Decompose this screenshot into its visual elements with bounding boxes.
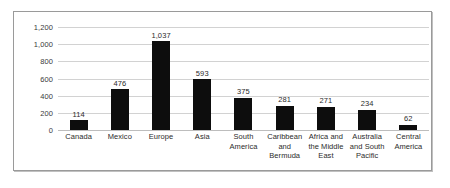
bar-value-label: 114 [72,110,84,119]
y-axis-tick-label: 1,000 [34,40,53,49]
plot-area: 1,2001,0008006004002000 1144761,03759337… [58,27,429,130]
bar-slot: 271 [305,27,346,130]
x-axis-category-label: CaribbeanandBermuda [264,132,305,161]
bar[interactable] [358,110,376,130]
bar[interactable] [399,125,417,130]
category-label-line: Pacific [347,151,388,161]
bar-slot: 593 [182,27,223,130]
bar[interactable] [111,89,129,130]
y-axis-tick-label: 1,200 [34,23,53,32]
x-axis-category-label: Mexico [99,132,140,142]
category-label-line: South [223,132,264,142]
axis-baseline: 0 [58,130,429,131]
y-axis-tick-label: 800 [40,57,53,66]
category-label-line: Caribbean [264,132,305,142]
y-axis-tick-label: 600 [40,74,53,83]
chart-screenshot: 1,2001,0008006004002000 1144761,03759337… [0,0,450,188]
bar[interactable] [193,79,211,130]
bar-slot: 62 [388,27,429,130]
bar[interactable] [276,106,294,130]
x-axis-category-label: Australiaand SouthPacific [347,132,388,161]
category-label-line: Australia [347,132,388,142]
category-label-line: Africa and [305,132,346,142]
bar-slot: 1,037 [140,27,181,130]
bar-value-label: 593 [196,69,209,78]
x-axis-category-label: Europe [140,132,181,142]
category-label-line: Central [388,132,429,142]
bar[interactable] [70,120,88,130]
category-label-line: America [223,142,264,152]
x-axis-category-label: Canada [58,132,99,142]
bar-value-label: 234 [361,99,374,108]
category-label-line: America [388,142,429,152]
bar-chart: 1,2001,0008006004002000 1144761,03759337… [13,11,432,171]
x-axis-category-label: CentralAmerica [388,132,429,151]
bar[interactable] [317,107,335,130]
bar-value-label: 375 [237,87,250,96]
category-label-line: the Middle [305,142,346,152]
category-label-line: Mexico [99,132,140,142]
bar-value-label: 281 [278,95,291,104]
y-axis-tick-label: 200 [40,108,53,117]
bar[interactable] [152,41,170,130]
bar-slot: 375 [223,27,264,130]
bars-group: 1144761,03759337528127123462 [58,27,429,130]
category-label-line: and [264,142,305,152]
bar-slot: 476 [99,27,140,130]
bar-slot: 281 [264,27,305,130]
bar[interactable] [234,98,252,130]
y-axis-tick-label: 0 [49,126,53,135]
category-label-line: Bermuda [264,151,305,161]
bar-value-label: 271 [320,96,333,105]
bar-value-label: 476 [113,79,126,88]
bar-slot: 234 [347,27,388,130]
category-label-line: Europe [140,132,181,142]
category-label-line: Canada [58,132,99,142]
y-axis-tick-label: 400 [40,91,53,100]
bar-value-label: 62 [404,114,413,123]
category-label-line: Asia [182,132,223,142]
category-label-line: and South [347,142,388,152]
bar-slot: 114 [58,27,99,130]
x-axis-category-labels: CanadaMexicoEuropeAsiaSouthAmericaCaribb… [58,132,429,168]
x-axis-category-label: SouthAmerica [223,132,264,151]
x-axis-category-label: Asia [182,132,223,142]
bar-value-label: 1,037 [151,31,170,40]
x-axis-category-label: Africa andthe MiddleEast [305,132,346,161]
category-label-line: East [305,151,346,161]
